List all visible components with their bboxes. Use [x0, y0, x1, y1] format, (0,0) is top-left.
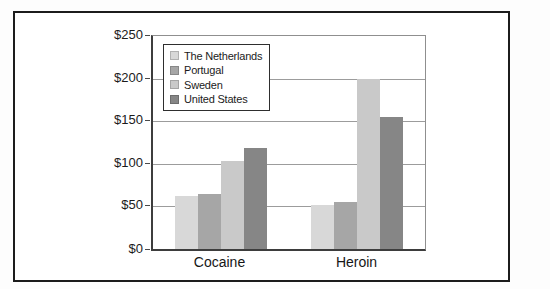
- y-tick-0: $0: [63, 241, 143, 257]
- bar-heroin-sweden: [357, 79, 380, 249]
- legend-swatch-the-netherlands: [170, 51, 179, 60]
- bar-cocaine-united-states: [244, 148, 267, 249]
- legend-label: United States: [184, 93, 247, 105]
- bar-group-heroin: [289, 36, 425, 249]
- legend-swatch-portugal: [170, 66, 179, 75]
- y-tick-label: $0: [129, 241, 143, 256]
- y-tick-100: $100: [63, 155, 143, 171]
- chart-frame: $250 $200 $150 $100 $50 $0 Cocaine Heroi…: [13, 11, 510, 282]
- bar-heroin-united-states: [380, 117, 403, 249]
- legend-label: The Netherlands: [184, 50, 262, 62]
- legend-swatch-united-states: [170, 95, 179, 104]
- legend-swatch-sweden: [170, 80, 179, 89]
- legend-item-portugal: Portugal: [170, 64, 262, 78]
- scanned-chart-page: $250 $200 $150 $100 $50 $0 Cocaine Heroi…: [0, 0, 550, 289]
- legend: The Netherlands Portugal Sweden United S…: [163, 44, 270, 111]
- legend-label: Sweden: [184, 79, 223, 91]
- legend-item-the-netherlands: The Netherlands: [170, 49, 262, 63]
- category-label-heroin: Heroin: [288, 254, 425, 270]
- legend-label: Portugal: [184, 64, 223, 76]
- legend-item-united-states: United States: [170, 93, 262, 107]
- bar-heroin-the-netherlands: [311, 205, 334, 249]
- bar-heroin-portugal: [334, 202, 357, 249]
- legend-item-sweden: Sweden: [170, 78, 262, 92]
- y-tick-250: $250: [63, 27, 143, 43]
- y-tick-label: $250: [114, 27, 143, 42]
- y-tick-50: $50: [63, 197, 143, 213]
- y-tick-label: $100: [114, 155, 143, 170]
- bar-cocaine-portugal: [198, 194, 221, 249]
- bar-cocaine-the-netherlands: [175, 196, 198, 249]
- y-tick-label: $150: [114, 112, 143, 127]
- bar-cocaine-sweden: [221, 161, 244, 249]
- category-label-cocaine: Cocaine: [151, 254, 288, 270]
- y-tick-label: $50: [121, 197, 143, 212]
- y-tick-label: $200: [114, 70, 143, 85]
- y-tick-200: $200: [63, 70, 143, 86]
- y-tick-150: $150: [63, 112, 143, 128]
